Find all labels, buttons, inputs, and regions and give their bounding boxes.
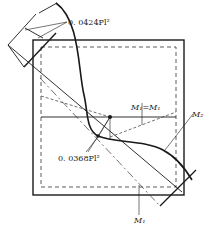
tick-top-3 bbox=[8, 14, 36, 45]
center-point bbox=[108, 115, 112, 119]
tick-top-4 bbox=[24, 33, 56, 67]
main-diagonal bbox=[8, 45, 182, 192]
tick-bottom-1 bbox=[160, 170, 196, 206]
leader-top-a bbox=[25, 22, 67, 30]
curve-point bbox=[96, 134, 100, 138]
plate-moment-diagram: 0. 0424Pl² 0. 0368Pl² M₁=M₁ M₂ M₁ bbox=[0, 0, 215, 236]
label-m1: M₁ bbox=[133, 216, 145, 225]
tick-top-1 bbox=[39, 3, 57, 13]
leader-m2 bbox=[165, 114, 193, 150]
label-top-moment: 0. 0424Pl² bbox=[68, 18, 110, 27]
leader-center-c bbox=[98, 117, 110, 137]
label-equal-moments: M₁=M₁ bbox=[130, 103, 161, 112]
dashed-slope-right bbox=[110, 112, 176, 137]
leader-top-b bbox=[38, 22, 67, 38]
label-center-moment: 0. 0368Pl² bbox=[58, 154, 100, 163]
label-m2: M₂ bbox=[191, 110, 203, 119]
dashed-slope-left bbox=[41, 96, 110, 117]
